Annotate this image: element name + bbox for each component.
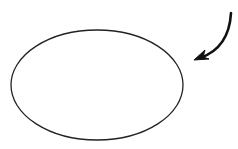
- diagram-canvas: [0, 0, 238, 149]
- diagram-svg: [0, 0, 238, 149]
- curved-arrow-icon: [194, 13, 231, 60]
- ellipse-shape: [11, 30, 183, 140]
